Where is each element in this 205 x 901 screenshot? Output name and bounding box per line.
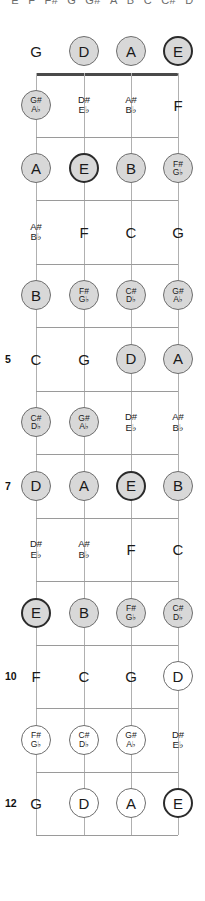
- note-G-fret11-Fsharp[interactable]: F#G♭: [21, 725, 51, 755]
- note-flat-label: A♭: [173, 295, 183, 304]
- note-glyph: C: [79, 669, 90, 684]
- note-E-fret7-B[interactable]: B: [163, 471, 193, 501]
- note-D-fret10-C[interactable]: C: [79, 669, 90, 684]
- chromatic-header-note: C: [144, 0, 152, 6]
- note-G-fret10-F[interactable]: F: [31, 669, 40, 684]
- note-G-fret3-Asharp[interactable]: A#B♭: [30, 222, 42, 242]
- note-E-fret0-E[interactable]: E: [163, 36, 193, 66]
- note-E-fret12-E[interactable]: E: [163, 788, 193, 818]
- note-G-fret9-E[interactable]: E: [21, 598, 51, 628]
- note-A-fret8-F[interactable]: F: [126, 542, 135, 557]
- note-glyph: D: [69, 788, 99, 818]
- note-D-fret7-A[interactable]: A: [69, 471, 99, 501]
- note-G-fret8-Dsharp[interactable]: D#E♭: [30, 539, 42, 559]
- note-G-fret12-G[interactable]: G: [30, 796, 42, 811]
- note-label: A: [31, 161, 41, 176]
- note-glyph: D: [163, 661, 193, 691]
- note-flat-label: B♭: [31, 232, 42, 242]
- fret-number-10: 10: [5, 670, 17, 682]
- note-sharp-label: D#: [125, 412, 137, 422]
- note-E-fret8-C[interactable]: C: [173, 542, 184, 557]
- chromatic-header-note: E: [11, 0, 19, 6]
- note-G-fret7-D[interactable]: D: [21, 471, 51, 501]
- note-label: E: [126, 478, 136, 493]
- note-E-fret4-Gsharp[interactable]: G#A♭: [163, 280, 193, 310]
- note-label: D: [79, 44, 90, 59]
- note-glyph: E: [21, 598, 51, 628]
- note-A-fret2-B[interactable]: B: [116, 153, 146, 183]
- note-D-fret1-Dsharp[interactable]: D#E♭: [78, 95, 90, 115]
- note-sharp-label: A#: [125, 95, 137, 105]
- note-glyph: F#G♭: [116, 598, 146, 628]
- note-flat-label: E♭: [173, 740, 184, 750]
- note-glyph: D: [21, 471, 51, 501]
- note-E-fret5-A[interactable]: A: [163, 344, 193, 374]
- note-A-fret0-A[interactable]: A: [116, 36, 146, 66]
- fret-line-4: [36, 327, 178, 328]
- note-G-fret0-G[interactable]: G: [30, 44, 42, 59]
- note-glyph: C: [126, 224, 137, 239]
- note-glyph: A: [21, 153, 51, 183]
- note-glyph: G#A♭: [69, 407, 99, 437]
- note-A-fret3-C[interactable]: C: [126, 224, 137, 239]
- note-E-fret9-Csharp[interactable]: C#D♭: [163, 598, 193, 628]
- note-G-fret5-C[interactable]: C: [31, 351, 42, 366]
- chromatic-header-note: A: [110, 0, 118, 6]
- chromatic-header-note: C#: [161, 0, 176, 6]
- note-A-fret10-G[interactable]: G: [125, 669, 137, 684]
- fret-line-1: [36, 137, 178, 138]
- note-glyph: D: [116, 344, 146, 374]
- note-glyph: F: [79, 224, 88, 239]
- note-G-fret6-Csharp[interactable]: C#D♭: [21, 407, 51, 437]
- chromatic-header-note: G: [67, 0, 76, 6]
- note-D-fret6-Gsharp[interactable]: G#A♭: [69, 407, 99, 437]
- note-D-fret4-Fsharp[interactable]: F#G♭: [69, 280, 99, 310]
- note-glyph: F#G♭: [163, 153, 193, 183]
- fret-number-12: 12: [5, 797, 17, 809]
- chromatic-header-strip: EFF#GG#ABCC#D: [0, 0, 205, 8]
- note-G-fret1-Gsharp[interactable]: G#A♭: [21, 90, 51, 120]
- note-flat-label: D♭: [31, 422, 41, 431]
- note-label: B: [31, 288, 41, 303]
- note-glyph: B: [163, 471, 193, 501]
- note-A-fret11-Gsharp[interactable]: G#A♭: [116, 725, 146, 755]
- note-A-fret7-E[interactable]: E: [116, 471, 146, 501]
- note-label: C: [79, 669, 90, 684]
- note-A-fret9-Fsharp[interactable]: F#G♭: [116, 598, 146, 628]
- note-D-fret2-E[interactable]: E: [69, 153, 99, 183]
- note-E-fret10-D[interactable]: D: [163, 661, 193, 691]
- note-D-fret3-F[interactable]: F: [79, 224, 88, 239]
- fret-line-7: [36, 518, 178, 519]
- note-label: B: [126, 161, 136, 176]
- note-A-fret12-A[interactable]: A: [116, 788, 146, 818]
- note-G-fret2-A[interactable]: A: [21, 153, 51, 183]
- note-glyph: E: [163, 36, 193, 66]
- note-E-fret6-Asharp[interactable]: A#B♭: [172, 412, 184, 432]
- note-E-fret3-G[interactable]: G: [172, 224, 184, 239]
- note-A-fret1-Asharp[interactable]: A#B♭: [125, 95, 137, 115]
- note-glyph: C: [173, 542, 184, 557]
- note-D-fret5-G[interactable]: G: [78, 351, 90, 366]
- note-D-fret9-B[interactable]: B: [69, 598, 99, 628]
- note-D-fret8-Asharp[interactable]: A#B♭: [78, 539, 90, 559]
- note-sharp-label: D#: [78, 95, 90, 105]
- note-glyph: D: [69, 36, 99, 66]
- note-glyph: A: [116, 36, 146, 66]
- note-label: D: [126, 351, 137, 366]
- note-label: F: [31, 669, 40, 684]
- fret-line-2: [36, 200, 178, 201]
- note-sharp-label: A#: [172, 412, 184, 422]
- note-A-fret4-Csharp[interactable]: C#D♭: [116, 280, 146, 310]
- note-label: G: [30, 796, 42, 811]
- note-A-fret6-Dsharp[interactable]: D#E♭: [125, 412, 137, 432]
- note-D-fret0-D[interactable]: D: [69, 36, 99, 66]
- note-A-fret5-D[interactable]: D: [116, 344, 146, 374]
- fret-number-7: 7: [5, 480, 11, 492]
- note-E-fret11-Dsharp[interactable]: D#E♭: [172, 730, 184, 750]
- note-D-fret11-Csharp[interactable]: C#D♭: [69, 725, 99, 755]
- note-glyph: F: [126, 542, 135, 557]
- note-G-fret4-B[interactable]: B: [21, 280, 51, 310]
- note-E-fret1-F[interactable]: F: [173, 97, 182, 112]
- note-D-fret12-D[interactable]: D: [69, 788, 99, 818]
- note-E-fret2-Fsharp[interactable]: F#G♭: [163, 153, 193, 183]
